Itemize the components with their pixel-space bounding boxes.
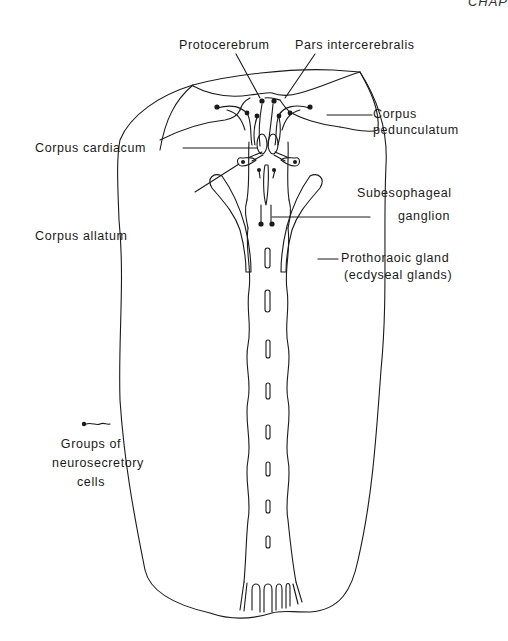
neuroendocrine-diagram	[0, 0, 508, 641]
cord-segments	[265, 248, 270, 548]
label-prothoracic-2: (ecdyseal glands)	[344, 268, 452, 283]
recurrent-nerve	[264, 165, 269, 205]
label-pars-intercerebralis: Pars intercerebralis	[295, 38, 415, 53]
nerve-cord-right	[286, 228, 296, 582]
label-corpus-cardiacum: Corpus cardiacum	[35, 141, 146, 156]
head-capsule-inner	[160, 85, 193, 150]
body-outline	[118, 70, 387, 619]
terminal-nerves	[240, 582, 302, 612]
label-subesophageal-1: Subesophageal	[357, 186, 452, 201]
corpus-cardiacum-right	[268, 134, 278, 154]
legend-line-2: neurosecretory	[36, 456, 160, 471]
legend-line-1: Groups of	[36, 437, 146, 452]
label-subesophageal-2: ganglion	[398, 209, 450, 224]
label-corpus-pedunculatum-1: Corpus	[373, 107, 417, 122]
corpus-cardiacum-left	[257, 134, 267, 154]
label-corpus-allatum: Corpus allatum	[35, 229, 127, 244]
corpus-allatum-left	[238, 158, 257, 167]
brain-lower-left	[160, 110, 240, 140]
nerve-cord-left	[244, 228, 250, 582]
leader-corpus-allatum	[195, 164, 239, 192]
label-corpus-pedunculatum-2: pedunculatum	[373, 123, 459, 138]
label-protocerebrum: Protocerebrum	[179, 38, 269, 53]
legend-line-3: cells	[36, 475, 146, 490]
brain-center-left	[240, 98, 250, 110]
prothoracic-gland-right	[281, 175, 322, 272]
label-prothoracic-1: Prothoraoic gland	[341, 251, 449, 266]
leader-pars	[285, 54, 315, 98]
prothoracic-gland-left	[210, 175, 251, 272]
brain-upper-edge	[193, 72, 360, 96]
